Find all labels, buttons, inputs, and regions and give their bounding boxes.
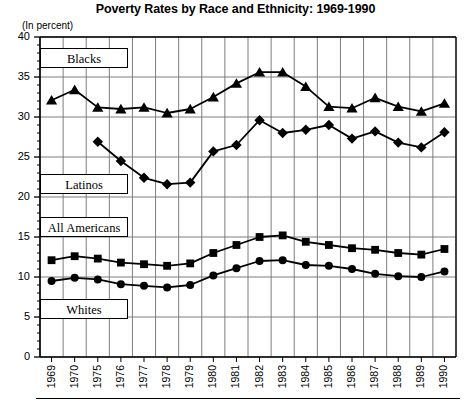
x-tick-label: 1983 [277, 365, 288, 388]
series-label-all-americans: All Americans [40, 217, 128, 237]
x-tick-label: 1986 [346, 365, 357, 388]
x-tick-label: 1978 [161, 365, 172, 388]
x-tick-label: 1970 [69, 365, 80, 388]
x-tick-label: 1987 [369, 365, 380, 388]
x-tick-label: 1990 [438, 365, 449, 388]
y-tick-label: 5 [8, 311, 30, 322]
y-tick-label: 15 [8, 231, 30, 242]
y-tick-label: 25 [8, 151, 30, 162]
x-tick-label: 1985 [323, 365, 334, 388]
x-tick-label: 1988 [392, 365, 403, 388]
y-tick-label: 35 [8, 71, 30, 82]
x-tick-label: 1980 [207, 365, 218, 388]
x-tick-label: 1979 [184, 365, 195, 388]
x-tick-label: 1977 [138, 365, 149, 388]
series-label-whites: Whites [40, 299, 128, 319]
y-tick-label: 30 [8, 111, 30, 122]
x-tick-label: 1984 [300, 365, 311, 388]
x-tick-label: 1981 [230, 365, 241, 388]
y-tick-label: 20 [8, 191, 30, 202]
y-tick-label: 0 [8, 351, 30, 362]
y-tick-label: 10 [8, 271, 30, 282]
x-tick-label: 1969 [46, 365, 57, 388]
x-tick-label: 1982 [254, 365, 265, 388]
bottom-rule [36, 398, 460, 399]
series-label-latinos: Latinos [40, 174, 128, 194]
x-tick-label: 1975 [92, 365, 103, 388]
y-tick-label: 40 [8, 31, 30, 42]
x-tick-label: 1976 [115, 365, 126, 388]
poverty-rates-chart: Poverty Rates by Race and Ethnicity: 196… [0, 0, 471, 409]
series-label-blacks: Blacks [40, 48, 128, 68]
x-tick-label: 1989 [415, 365, 426, 388]
